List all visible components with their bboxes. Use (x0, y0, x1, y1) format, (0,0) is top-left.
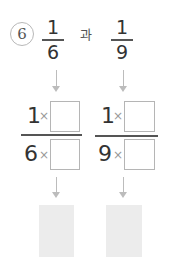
fraction-bar (95, 135, 158, 137)
arrow-down-icon (119, 86, 127, 92)
fraction-2-numerator: 1 (111, 18, 133, 37)
times-sign: × (39, 148, 49, 162)
denominator-multiplier-input-1[interactable] (50, 139, 80, 170)
arrow-down-icon (56, 177, 57, 193)
arrow-down-icon (56, 70, 57, 87)
arrow-down-icon (52, 192, 60, 198)
numerator-multiplier-input-2[interactable] (124, 101, 155, 132)
arrow-down-icon (119, 192, 127, 198)
fraction-1-denominator: 6 (42, 43, 64, 62)
expansion-1-denominator: 6 (24, 143, 38, 165)
arrow-down-icon (123, 70, 124, 87)
fraction-bar (21, 134, 82, 136)
times-sign: × (113, 148, 123, 162)
expansion-2-denominator: 9 (98, 143, 112, 165)
answer-area-1[interactable] (39, 205, 74, 257)
times-sign: × (39, 109, 49, 123)
arrow-down-icon (123, 177, 124, 193)
fraction-1-numerator: 1 (42, 18, 64, 37)
connector-text: 과 (80, 24, 92, 43)
fraction-2-denominator: 9 (111, 43, 133, 62)
fraction-1: 1 6 (42, 18, 64, 62)
problem-number: 6 (10, 22, 34, 46)
fraction-2: 1 9 (111, 18, 133, 62)
times-sign: × (113, 109, 123, 123)
answer-area-2[interactable] (106, 205, 142, 257)
numerator-multiplier-input-1[interactable] (50, 101, 80, 132)
denominator-multiplier-input-2[interactable] (124, 139, 155, 170)
arrow-down-icon (52, 86, 60, 92)
